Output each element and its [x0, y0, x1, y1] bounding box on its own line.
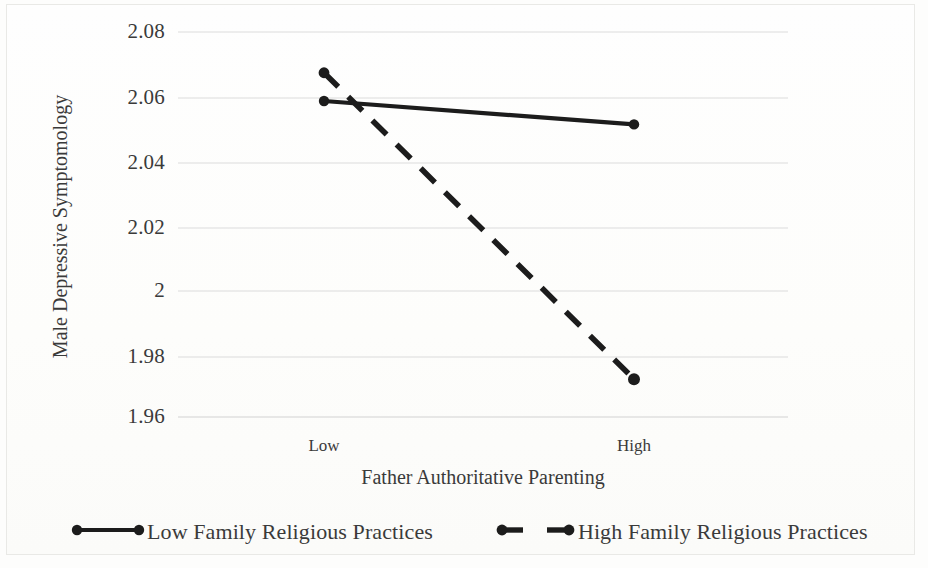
data-point: [319, 96, 329, 106]
legend-dashed-line-icon: [495, 519, 577, 545]
chart-figure: 2.08 2.06 2.04 2.02 2 1.98 1.96 Low High…: [0, 0, 928, 568]
data-point: [319, 67, 330, 78]
xtick-label-high: High: [574, 436, 694, 456]
xtick-label-low: Low: [264, 436, 384, 456]
x-axis-title: Father Authoritative Parenting: [178, 466, 788, 489]
legend-label: Low Family Religious Practices: [147, 519, 433, 545]
series-high-family-religious-practices: [319, 67, 640, 385]
y-axis-title: Male Depressive Symptomology: [49, 17, 72, 437]
legend-solid-line-icon: [70, 519, 146, 545]
legend-item-low-family-religious-practices[interactable]: Low Family Religious Practices: [70, 519, 433, 545]
gridlines: [178, 32, 788, 417]
series-low-family-religious-practices: [319, 96, 639, 130]
legend-label: High Family Religious Practices: [578, 519, 868, 545]
data-point: [629, 119, 639, 129]
legend-spacer: [433, 532, 495, 533]
legend-item-high-family-religious-practices[interactable]: High Family Religious Practices: [495, 519, 868, 545]
chart-legend: Low Family Religious Practices High Fami…: [70, 512, 870, 552]
data-point: [628, 373, 640, 385]
